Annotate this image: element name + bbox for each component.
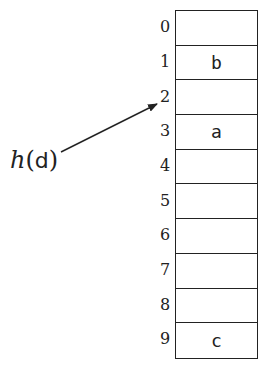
function-name: h: [10, 146, 25, 174]
hash-table-diagram: 0 1 2 3 4 5 6 7 8 9 b a c h(d): [0, 0, 273, 382]
arrow-icon: [0, 0, 273, 382]
hash-function-label: h(d): [10, 146, 58, 174]
function-argument: d: [35, 148, 49, 173]
open-paren: (: [25, 146, 34, 174]
close-paren: ): [49, 146, 58, 174]
